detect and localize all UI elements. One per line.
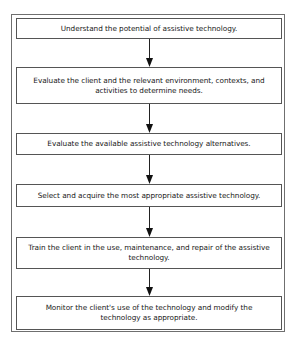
step-label: Evaluate the client and the relevant env…: [27, 76, 271, 96]
arrow-down-icon: [145, 39, 154, 67]
arrow-down-icon: [145, 207, 154, 237]
step-label: Monitor the client's use of the technolo…: [27, 303, 271, 323]
step-label: Evaluate the available assistive technol…: [47, 139, 250, 149]
step-select-acquire: Select and acquire the most appropriate …: [16, 184, 282, 207]
step-train-client: Train the client in the use, maintenance…: [16, 237, 282, 269]
arrow-down-icon: [145, 104, 154, 133]
step-monitor-modify: Monitor the client's use of the technolo…: [16, 296, 282, 330]
step-label: Understand the potential of assistive te…: [61, 24, 238, 34]
step-understand-potential: Understand the potential of assistive te…: [16, 18, 282, 39]
arrow-down-icon: [145, 155, 154, 184]
arrow-down-icon: [145, 269, 154, 296]
step-evaluate-alternatives: Evaluate the available assistive technol…: [16, 133, 282, 155]
step-label: Select and acquire the most appropriate …: [38, 191, 261, 201]
step-evaluate-client-needs: Evaluate the client and the relevant env…: [16, 67, 282, 104]
step-label: Train the client in the use, maintenance…: [27, 243, 271, 263]
